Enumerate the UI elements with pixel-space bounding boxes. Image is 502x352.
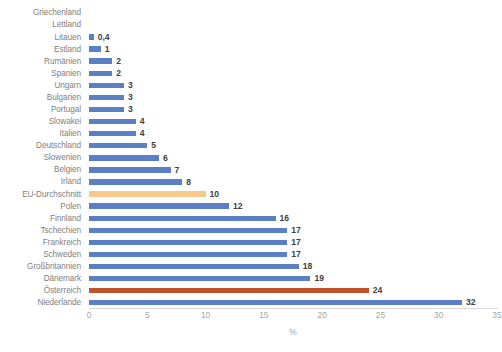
category-label: Polen <box>60 202 85 211</box>
bar-value-label: 2 <box>112 57 121 66</box>
category-label: Tschechien <box>41 226 85 235</box>
bar <box>89 216 276 221</box>
bar-value-label: 1 <box>101 45 110 54</box>
category-label: Belgien <box>54 165 85 174</box>
bar-value-label: 6 <box>159 154 168 163</box>
category-label: EU-Durchschnitt <box>22 190 85 199</box>
value-axis-tick-label: 30 <box>434 310 443 320</box>
bar <box>89 58 112 63</box>
bar <box>89 95 124 100</box>
bar-value-label: 4 <box>136 117 145 126</box>
bar-value-label: 16 <box>276 214 290 223</box>
category-label: Schweden <box>43 250 85 259</box>
bar <box>89 155 159 160</box>
bar <box>89 83 124 88</box>
bar-value-label: 19 <box>310 274 324 283</box>
category-label: Italien <box>60 129 86 138</box>
bar-value-label: 17 <box>287 238 301 247</box>
bar-value-label: 8 <box>182 178 191 187</box>
bar-value-label: 3 <box>124 105 133 114</box>
category-label: Großbritannien <box>27 262 85 271</box>
category-label: Lettland <box>52 20 85 29</box>
bar <box>89 191 206 196</box>
bar <box>89 71 112 76</box>
bar-value-label: 4 <box>136 129 145 138</box>
bar <box>89 228 287 233</box>
bar <box>89 240 287 245</box>
category-label: Slowenien <box>44 153 85 162</box>
bar-value-label: 32 <box>462 298 476 307</box>
category-label: Spanien <box>51 69 85 78</box>
category-label: Niederlande <box>37 298 85 307</box>
category-label: Griechenland <box>33 8 85 17</box>
bar <box>89 264 299 269</box>
bar-value-label: 7 <box>171 166 180 175</box>
bar-value-label: 17 <box>287 250 301 259</box>
category-label: Irland <box>61 177 85 186</box>
value-axis-ticks: 05101520253035 <box>89 310 497 324</box>
bar-value-label: 24 <box>369 286 383 295</box>
bar-value-label: 17 <box>287 226 301 235</box>
bar-value-label: 3 <box>124 93 133 102</box>
bar <box>89 107 124 112</box>
bar <box>89 276 310 281</box>
bar <box>89 203 229 208</box>
bar <box>89 300 462 305</box>
category-label: Litauen <box>54 33 85 42</box>
bar-value-label: 10 <box>206 190 220 199</box>
category-label: Dänemark <box>44 274 85 283</box>
category-label: Estland <box>54 45 85 54</box>
value-axis-tick-label: 5 <box>145 310 150 320</box>
bar <box>89 252 287 257</box>
value-axis-tick-label: 25 <box>376 310 385 320</box>
category-label: Rumänien <box>44 57 85 66</box>
category-label: Deutschland <box>36 141 85 150</box>
value-axis-tick-label: 20 <box>317 310 326 320</box>
category-label-row: Niederlande <box>0 296 85 310</box>
value-axis-tick-label: 0 <box>87 310 92 320</box>
category-label: Österreich <box>44 286 85 295</box>
category-label: Portugal <box>51 105 85 114</box>
value-axis-tick-label: 10 <box>201 310 210 320</box>
bar-value-label: 0,4 <box>94 33 110 42</box>
bar-value-label: 18 <box>299 262 313 271</box>
bar-value-label: 3 <box>124 81 133 90</box>
value-axis-title: % <box>89 327 497 337</box>
category-label: Frankreich <box>43 238 85 247</box>
bar <box>89 131 136 136</box>
value-axis-line <box>89 308 498 309</box>
plot-area: 0,412233344567810121617171718192432 <box>89 6 497 308</box>
bar <box>89 143 147 148</box>
bar <box>89 288 369 293</box>
bar-value-label: 12 <box>229 202 243 211</box>
bar <box>89 167 171 172</box>
bar-value-label: 5 <box>147 141 156 150</box>
category-axis-labels: GriechenlandLettlandLitauenEstlandRumäni… <box>0 6 85 308</box>
category-label: Bulgarien <box>47 93 85 102</box>
value-axis-tick-label: 35 <box>492 310 501 320</box>
bar <box>89 119 136 124</box>
category-label: Finnland <box>50 214 85 223</box>
value-axis-tick-label: 15 <box>259 310 268 320</box>
category-label: Ungarn <box>54 81 85 90</box>
category-label: Slowakei <box>49 117 85 126</box>
bar-value-label: 2 <box>112 69 121 78</box>
bar <box>89 46 101 51</box>
bar <box>89 179 182 184</box>
